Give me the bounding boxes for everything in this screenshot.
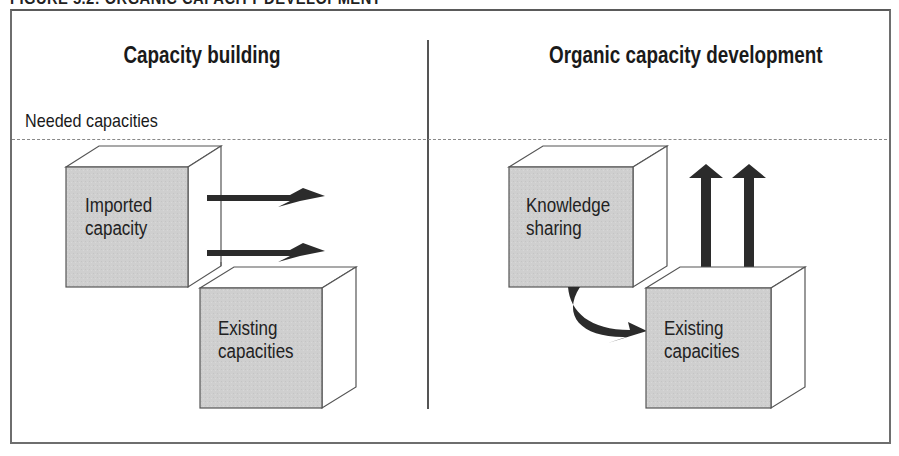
label-line: Existing bbox=[664, 317, 740, 340]
knowledge-sharing-label: Knowledge sharing bbox=[526, 194, 610, 240]
right-arrow-icon bbox=[207, 188, 325, 207]
curved-arrow-icon bbox=[568, 287, 647, 343]
label-line: capacity bbox=[85, 217, 152, 240]
existing-capacities-label-right: Existing capacities bbox=[664, 317, 740, 363]
imported-capacity-label: Imported capacity bbox=[85, 194, 152, 240]
up-arrow-icon bbox=[689, 164, 723, 275]
label-line: capacities bbox=[218, 340, 294, 363]
label-line: capacities bbox=[664, 340, 740, 363]
right-arrow-icon bbox=[207, 243, 325, 262]
label-line: Existing bbox=[218, 317, 294, 340]
existing-capacities-label-left: Existing capacities bbox=[218, 317, 294, 363]
up-arrow-icon bbox=[732, 164, 766, 275]
label-line: sharing bbox=[526, 217, 610, 240]
label-line: Knowledge bbox=[526, 194, 610, 217]
label-line: Imported bbox=[85, 194, 152, 217]
